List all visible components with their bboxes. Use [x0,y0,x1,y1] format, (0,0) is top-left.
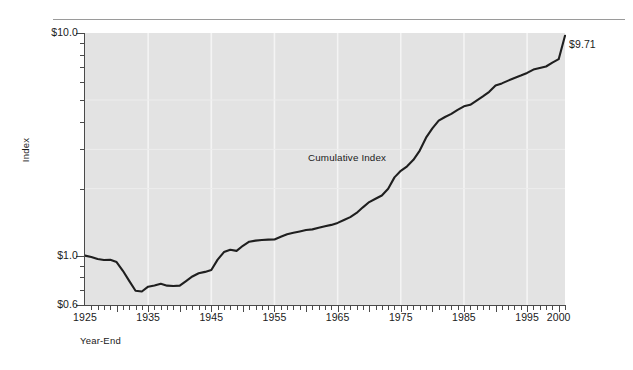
x-tick-mark [230,306,231,310]
x-tick-mark [199,306,200,310]
x-tick-mark [407,306,408,310]
y-tick-mark [80,100,85,101]
y-tick-label-wrap: $10.0 [26,26,78,38]
x-tick-mark [192,306,193,310]
x-tick-mark [154,306,155,310]
y-tick-mark [80,277,85,278]
x-tick-mark [98,306,99,310]
x-tick-mark [312,306,313,310]
x-tick-mark [104,306,105,310]
series-annotation-label: Cumulative Index [308,152,386,163]
x-tick-mark [186,306,187,310]
x-tick-mark [445,306,446,310]
x-tick-mark [483,306,484,310]
x-tick-mark [502,306,503,310]
x-tick-mark [167,306,168,310]
x-tick-mark [173,306,174,310]
x-tick-mark [439,306,440,310]
y-tick-label-wrap: $0.6 [26,298,78,310]
y-tick-mark [80,122,85,123]
x-tick-mark [91,306,92,310]
x-tick-mark [331,306,332,310]
x-tick-mark [117,306,118,312]
x-tick-label: 1925 [59,311,111,323]
x-tick-mark [546,306,547,310]
x-tick-label: 1935 [122,311,174,323]
x-tick-mark [521,306,522,310]
x-tick-mark [376,306,377,310]
y-tick-mark [80,82,85,83]
x-tick-mark [224,306,225,310]
x-tick-mark [249,306,250,310]
x-tick-mark [205,306,206,310]
x-tick-mark [306,306,307,312]
x-tick-mark [552,306,553,310]
y-tick-mark [80,290,85,291]
x-tick-mark [325,306,326,310]
y-tick-mark [80,266,85,267]
x-tick-mark [123,306,124,310]
x-tick-mark [458,306,459,310]
y-tick-label: $0.6 [57,298,78,310]
x-tick-mark [268,306,269,310]
x-tick-label: 1955 [248,311,300,323]
end-value-label: $9.71 [569,38,596,50]
x-tick-mark [388,306,389,310]
x-tick-mark [451,306,452,310]
x-tick-mark [300,306,301,310]
x-tick-mark [369,306,370,312]
x-tick-mark [413,306,414,310]
y-axis-title: Index [20,120,31,180]
x-tick-mark [281,306,282,310]
x-tick-mark [394,306,395,310]
x-axis-title: Year-End [80,335,121,346]
x-tick-mark [363,306,364,310]
x-tick-mark [218,306,219,310]
x-tick-label: 1985 [438,311,490,323]
x-tick-mark [426,306,427,310]
x-tick-label: 1945 [185,311,237,323]
x-tick-mark [110,306,111,310]
x-tick-mark [565,306,566,310]
y-tick-mark [80,43,85,44]
x-tick-mark [262,306,263,310]
y-tick-label-wrap: $1.0 [26,249,78,261]
x-tick-mark [136,306,137,310]
y-tick-label: $1.0 [57,249,78,261]
y-tick-mark [80,149,85,150]
x-tick-mark [540,306,541,310]
x-tick-mark [344,306,345,310]
x-tick-mark [237,306,238,310]
y-tick-mark [80,55,85,56]
x-tick-mark [432,306,433,312]
y-tick-mark [80,189,85,190]
x-tick-mark [161,306,162,310]
x-tick-mark [180,306,181,312]
x-tick-mark [350,306,351,310]
x-tick-mark [382,306,383,310]
x-tick-mark [287,306,288,310]
x-tick-mark [357,306,358,310]
x-tick-label: 1975 [375,311,427,323]
x-tick-mark [319,306,320,310]
x-tick-mark [514,306,515,310]
chart-figure: $10.0$1.0$0.6 19251935194519551965197519… [0,0,633,370]
y-tick-label: $10.0 [51,26,78,38]
x-tick-mark [142,306,143,310]
x-tick-mark [489,306,490,310]
x-tick-mark [293,306,294,310]
x-tick-mark [129,306,130,310]
x-tick-mark [477,306,478,310]
cumulative-index-line [85,33,565,305]
y-tick-mark [80,67,85,68]
x-tick-mark [496,306,497,312]
x-tick-mark [420,306,421,310]
top-divider-rule [53,19,625,20]
x-tick-label: 1965 [312,311,364,323]
x-tick-mark [508,306,509,310]
x-tick-mark [470,306,471,310]
x-tick-label: 2000 [533,311,585,323]
plot-area [85,33,565,305]
x-tick-mark [256,306,257,310]
x-tick-mark [243,306,244,312]
